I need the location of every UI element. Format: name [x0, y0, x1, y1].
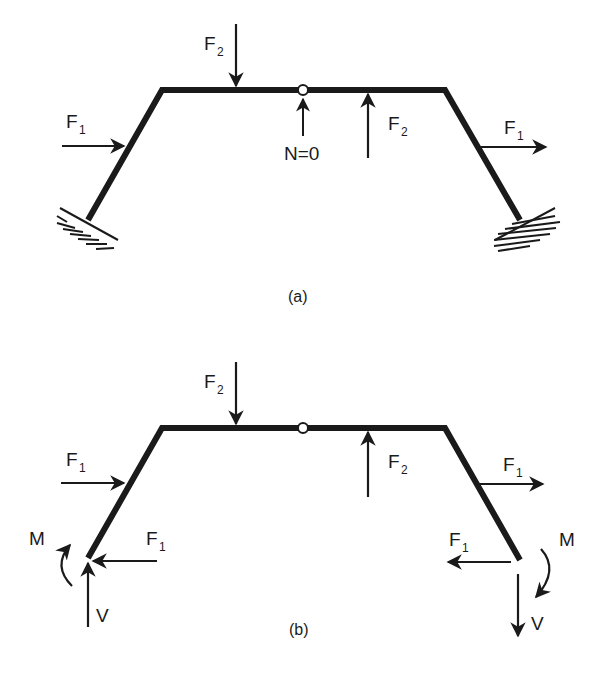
hinge-icon	[298, 85, 308, 95]
caption-b: (b)	[289, 621, 309, 638]
label-f1-reaction-right: F	[449, 529, 461, 550]
label-v-left: V	[96, 605, 109, 626]
fixed-support-left-icon	[57, 208, 118, 249]
hinge-icon	[298, 423, 308, 433]
svg-text:1: 1	[79, 123, 86, 137]
svg-text:1: 1	[517, 129, 524, 143]
label-f1-right: F	[503, 454, 515, 475]
label-n-zero: N=0	[284, 143, 319, 164]
svg-text:1: 1	[79, 461, 86, 475]
moment-right-arrow-icon	[536, 549, 549, 597]
label-f2-top: F	[204, 371, 216, 392]
moment-left-arrow-icon	[61, 545, 72, 586]
label-v-right: V	[531, 613, 544, 634]
frame-diagram: F 2 F 1 N=0 F 2 F 1 (a) F 2 F 1 F 2	[0, 0, 600, 677]
label-f2-up: F	[388, 451, 400, 472]
caption-a: (a)	[288, 288, 308, 305]
svg-text:1: 1	[462, 541, 469, 555]
label-m-left: M	[29, 528, 45, 549]
label-f1-right: F	[504, 117, 516, 138]
svg-text:2: 2	[217, 383, 224, 397]
panel-b: F 2 F 1 F 2 F 1 M F 1 V M F 1 V (b)	[29, 362, 575, 638]
svg-text:1: 1	[516, 466, 523, 480]
label-f1-left: F	[66, 449, 78, 470]
svg-text:2: 2	[401, 125, 408, 139]
label-f2-up: F	[388, 113, 400, 134]
label-f1-left: F	[66, 111, 78, 132]
svg-text:2: 2	[217, 45, 224, 59]
fixed-support-right-icon	[494, 208, 560, 251]
label-f1-reaction-left: F	[146, 528, 158, 549]
label-m-right: M	[559, 529, 575, 550]
panel-a: F 2 F 1 N=0 F 2 F 1 (a)	[57, 24, 560, 305]
svg-text:2: 2	[401, 463, 408, 477]
svg-text:1: 1	[159, 540, 166, 554]
label-f2-top: F	[204, 33, 216, 54]
